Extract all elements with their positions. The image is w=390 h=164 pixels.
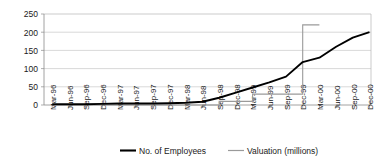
y-tick-label-250: 250 [24, 9, 38, 19]
x-tick-label-4: Mar-97 [116, 84, 125, 110]
x-tick-label-19: Dec-00 [366, 84, 375, 110]
chart-background [0, 0, 390, 164]
x-tick-label-13: Jun-99 [266, 85, 275, 110]
y-tick-label-100: 100 [24, 64, 38, 74]
y-tick-label-150: 150 [24, 46, 38, 56]
x-tick-label-14: Sep-99 [283, 84, 292, 110]
x-tick-label-6: Sep-97 [149, 84, 158, 110]
y-tick-label-0: 0 [33, 100, 38, 110]
x-tick-label-15: Dec-99 [299, 84, 308, 110]
x-tick-label-17: Jun-00 [333, 85, 342, 110]
x-tick-label-5: Jun-97 [132, 85, 141, 110]
y-tick-label-200: 200 [24, 28, 38, 38]
x-tick-label-1: Jun-96 [66, 85, 75, 110]
x-tick-label-18: Sep-00 [350, 84, 359, 110]
legend-label-employees: No. of Employees [139, 146, 206, 156]
x-tick-label-8: Mar-98 [183, 84, 192, 110]
chart-container: 250 200 150 100 50 0 [0, 0, 390, 164]
x-tick-label-0: Mar-96 [49, 84, 58, 110]
x-tick-label-9: Jun-98 [199, 85, 208, 110]
x-tick-label-3: Dec-96 [99, 84, 108, 110]
legend-label-valuation: Valuation (millions) [247, 146, 318, 156]
x-tick-label-16: Mar-00 [316, 84, 325, 110]
line-chart: 250 200 150 100 50 0 [0, 0, 390, 164]
y-tick-label-50: 50 [29, 82, 39, 92]
x-tick-label-11: Dec-98 [233, 84, 242, 110]
x-tick-label-7: Dec-97 [166, 84, 175, 110]
x-tick-label-2: Sep-96 [82, 84, 91, 110]
